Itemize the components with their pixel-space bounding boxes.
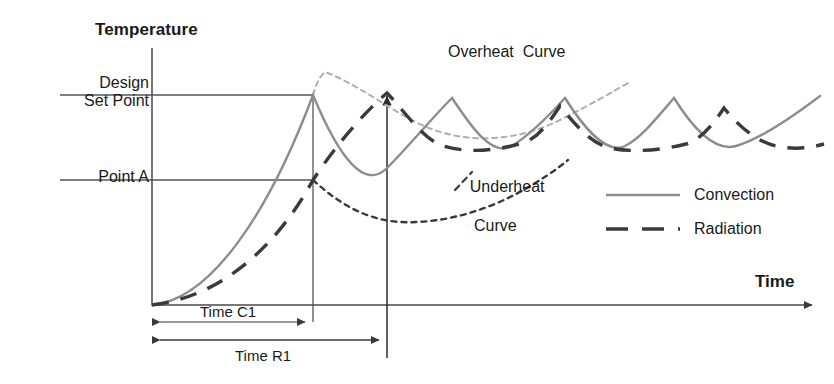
time-r1-label: Time R1: [235, 348, 291, 365]
overheat-curve-label: Overheat Curve: [448, 43, 565, 61]
point-a-label: Point A: [44, 168, 149, 186]
vertical-markers: [313, 95, 387, 358]
underheat-curve-label-line2: Curve: [452, 216, 545, 236]
underheat-curve-label-line1: Underheat: [470, 178, 545, 195]
thermal-response-diagram: Temperature Time Design Set Point Point …: [0, 0, 834, 384]
y-axis-title: Temperature: [95, 20, 198, 39]
legend-item-radiation: Radiation: [694, 220, 762, 238]
legend-item-convection: Convection: [694, 186, 774, 204]
x-axis-title: Time: [755, 272, 794, 291]
underheat-curve-label: Underheat Curve: [452, 157, 545, 274]
time-c1-label: Time C1: [200, 304, 256, 321]
legend-swatches: [606, 195, 680, 229]
dimension-lines: [160, 322, 379, 340]
design-set-point-label: Design Set Point: [44, 74, 149, 110]
overheat-curve-path: [313, 72, 630, 138]
